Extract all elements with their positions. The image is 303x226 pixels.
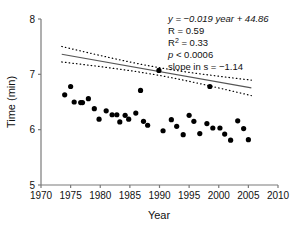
data-point: [222, 131, 227, 136]
y-tick-label: 5: [29, 180, 35, 191]
data-point: [191, 119, 196, 124]
data-point: [104, 108, 109, 113]
correlation-text: R = 0.59: [168, 25, 204, 36]
x-tick-label: 2010: [267, 190, 290, 201]
regression-equation-text: y = −0.019 year + 44.86: [167, 13, 269, 24]
data-point: [246, 137, 251, 142]
data-point: [72, 99, 77, 104]
y-axis-title: Time (min): [5, 76, 17, 128]
data-point: [96, 117, 101, 122]
data-point: [80, 100, 85, 105]
data-point: [174, 124, 179, 129]
data-point: [210, 125, 215, 130]
data-point: [169, 117, 174, 122]
scatter-plot: 5678 19701975198019851990199520002005201…: [0, 0, 303, 226]
data-point: [141, 119, 146, 124]
data-point: [228, 138, 233, 143]
x-tick-label: 1995: [178, 190, 201, 201]
data-point: [160, 128, 165, 133]
y-tick-label: 6: [29, 124, 35, 135]
data-point: [68, 84, 73, 89]
data-point: [204, 121, 209, 126]
x-tick-label: 2000: [208, 190, 231, 201]
x-axis-title: Year: [148, 209, 171, 221]
data-point: [117, 119, 122, 124]
x-tick-label: 1970: [30, 190, 53, 201]
chart-figure: 5678 19701975198019851990199520002005201…: [0, 0, 303, 226]
data-point: [197, 131, 202, 136]
x-tick-label: 1985: [119, 190, 142, 201]
data-point: [114, 112, 119, 117]
data-point: [92, 106, 97, 111]
data-point: [241, 126, 246, 131]
y-tick-label: 8: [29, 14, 35, 25]
slope-seconds-text: slope in s = −1.14: [168, 61, 243, 72]
data-point: [145, 123, 150, 128]
data-point: [181, 132, 186, 137]
data-point: [133, 110, 138, 115]
y-tick-label: 7: [29, 69, 35, 80]
data-point: [217, 125, 222, 130]
data-point: [207, 84, 212, 89]
p-value-text: p < 0.0006: [167, 49, 213, 60]
x-axis-tick-labels: 197019751980198519901995200020052010: [30, 190, 290, 201]
data-point: [138, 88, 143, 93]
x-tick-label: 2005: [237, 190, 260, 201]
data-point: [123, 113, 128, 118]
data-point: [156, 68, 161, 73]
data-point: [62, 92, 67, 97]
r-squared-text: R2 = 0.33: [168, 37, 208, 49]
x-tick-label: 1980: [89, 190, 112, 201]
data-point: [86, 96, 91, 101]
r-squared-value: = 0.33: [179, 37, 208, 48]
x-tick-label: 1990: [148, 190, 171, 201]
p-value-rest: < 0.0006: [173, 49, 213, 60]
data-point: [187, 113, 192, 118]
x-tick-label: 1975: [60, 190, 83, 201]
data-point: [126, 117, 131, 122]
data-point: [110, 112, 115, 117]
data-point: [235, 118, 240, 123]
